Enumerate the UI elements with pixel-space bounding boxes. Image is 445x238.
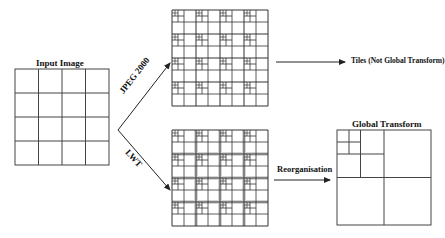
jpeg2000-arrow	[118, 63, 170, 130]
input-image-label: Input Image	[36, 59, 84, 68]
reorganisation-label: Reorganisation	[277, 165, 332, 174]
global-transform-label: Global Transform	[352, 120, 421, 129]
tiles-result-label: Tiles (Not Global Transform)	[351, 57, 445, 65]
global-transform-grid	[337, 130, 431, 225]
input-image-grid	[15, 69, 109, 165]
lwt-grid	[172, 130, 268, 226]
jpeg2000-tiles-grid	[172, 10, 268, 106]
lwt-arrow	[118, 130, 170, 190]
